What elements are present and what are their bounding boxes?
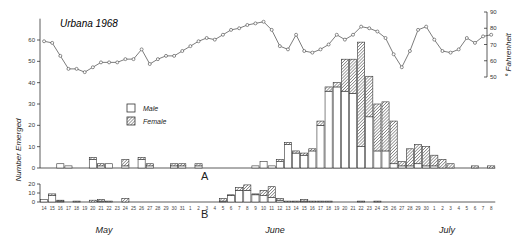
male-bar — [398, 166, 405, 168]
female-bar — [195, 164, 202, 166]
male-bar — [358, 147, 365, 168]
day-label: 30 — [424, 206, 430, 211]
panel-a-tick-label: 0 — [32, 165, 36, 171]
day-label: 2 — [197, 206, 200, 211]
male-bar — [293, 153, 300, 168]
temp-point — [343, 38, 346, 41]
day-label: 18 — [74, 206, 80, 211]
day-label: 14 — [42, 206, 48, 211]
panel-a-label: A — [201, 170, 209, 182]
female-bar — [97, 199, 104, 201]
temp-point — [254, 22, 257, 25]
day-label: 18 — [326, 206, 332, 211]
temp-point — [400, 66, 403, 69]
y-right-axis-label: ° Fahrenheit — [504, 32, 513, 76]
day-label: 5 — [466, 206, 469, 211]
day-label: 25 — [383, 206, 389, 211]
male-bar — [276, 162, 283, 168]
male-bar — [349, 93, 356, 168]
day-axis: 1415161718192021222324252627282930311234… — [42, 206, 493, 211]
temp-tick-label: 50 — [490, 74, 497, 80]
temp-tick-label: 70 — [490, 42, 497, 48]
temp-point — [465, 37, 468, 40]
day-label: 7 — [482, 206, 485, 211]
day-label: 28 — [155, 206, 161, 211]
day-label: 4 — [214, 206, 217, 211]
temp-point — [173, 54, 176, 57]
female-bar — [49, 194, 56, 196]
temp-point — [392, 53, 395, 56]
temp-point — [91, 66, 94, 69]
day-label: 16 — [58, 206, 64, 211]
legend: Male Female — [127, 104, 166, 125]
female-bar — [276, 198, 283, 200]
temp-point — [197, 40, 200, 43]
female-bar — [439, 159, 446, 168]
male-bar — [325, 91, 332, 168]
temp-point — [286, 48, 289, 51]
female-bar — [227, 195, 234, 196]
panel-a-tick-label: 50 — [28, 58, 35, 64]
day-label: 8 — [246, 206, 249, 211]
female-bar — [488, 166, 495, 168]
temp-point — [132, 58, 135, 61]
male-bar — [227, 196, 234, 202]
female-bar — [268, 187, 275, 198]
male-bar — [382, 151, 389, 168]
number-emerged-axis: 010203040506001020 — [28, 19, 40, 205]
temp-point — [473, 41, 476, 44]
female-bar — [284, 142, 291, 144]
day-label: 30 — [172, 206, 178, 211]
day-label: 14 — [294, 206, 300, 211]
male-bar — [146, 166, 153, 168]
temp-tick-label: 90 — [490, 9, 497, 15]
temp-point — [490, 33, 493, 36]
male-bar — [414, 164, 421, 168]
temp-point — [408, 50, 411, 53]
male-bar — [341, 91, 348, 168]
male-bar — [97, 166, 104, 168]
male-bar — [333, 87, 340, 168]
day-label: 6 — [474, 206, 477, 211]
female-bar — [317, 121, 324, 125]
day-label: 10 — [261, 206, 267, 211]
female-bar — [374, 201, 381, 202]
female-bar — [358, 42, 365, 147]
legend-female-label: Female — [143, 118, 166, 125]
day-label: 6 — [230, 206, 233, 211]
temp-point — [425, 25, 428, 28]
female-bar — [341, 59, 348, 91]
male-bar — [317, 125, 324, 168]
temp-point — [156, 58, 159, 61]
female-bar — [366, 76, 373, 117]
temp-point — [59, 54, 62, 57]
day-label: 26 — [139, 206, 145, 211]
day-label: 19 — [82, 206, 88, 211]
day-label: 7 — [238, 206, 241, 211]
female-bar — [447, 164, 454, 168]
day-label: 3 — [449, 206, 452, 211]
panel-a-tick-label: 60 — [28, 37, 35, 43]
month-label-may: May — [95, 225, 113, 235]
legend-male-label: Male — [143, 105, 158, 112]
temp-point — [278, 45, 281, 48]
day-label: 24 — [375, 206, 381, 211]
day-label: 13 — [285, 206, 291, 211]
male-bar — [179, 166, 186, 168]
temp-point — [148, 63, 151, 66]
male-bar — [171, 166, 178, 168]
day-label: 24 — [123, 206, 129, 211]
day-label: 25 — [131, 206, 137, 211]
male-bar — [301, 155, 308, 168]
female-bar — [358, 201, 365, 202]
temp-point — [99, 61, 102, 64]
female-bar — [349, 59, 356, 93]
temp-point — [327, 43, 330, 46]
male-bar — [406, 166, 413, 168]
male-bar — [195, 166, 202, 168]
day-label: 12 — [277, 206, 283, 211]
day-label: 21 — [98, 206, 104, 211]
female-bar — [106, 201, 113, 202]
day-label: 29 — [163, 206, 169, 211]
female-bar — [179, 164, 186, 166]
